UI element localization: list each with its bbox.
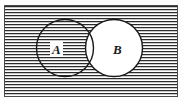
universal-set-frame [4, 5, 178, 97]
venn-diagram-figure: A B [0, 0, 184, 104]
set-label-b: B [111, 42, 124, 57]
set-label-a: A [50, 42, 63, 57]
